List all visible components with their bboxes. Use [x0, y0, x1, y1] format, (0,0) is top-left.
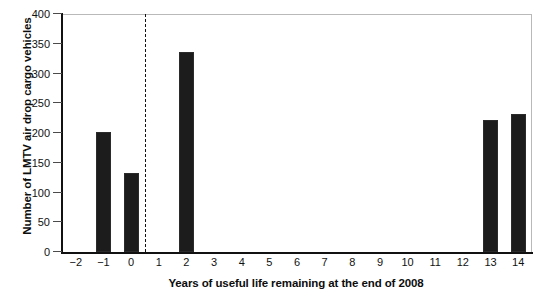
y-axis-tick: [53, 102, 62, 103]
y-axis-tick-label: 200: [16, 127, 50, 139]
y-axis-tick: [53, 73, 62, 74]
x-axis-tick-label: 11: [420, 256, 450, 268]
plot-frame-top: [62, 14, 532, 15]
bar-chart-figure: Number of LMTV air drop cargo vehicles Y…: [0, 0, 550, 300]
y-axis-tick-label: 100: [16, 187, 50, 199]
y-axis-line: [61, 13, 63, 253]
y-axis-tick-label: 150: [16, 157, 50, 169]
x-axis-tick-label: −2: [61, 256, 91, 268]
y-axis-tick-label: 350: [16, 38, 50, 50]
x-axis-tick-label: 0: [116, 256, 146, 268]
x-axis-tick-label: 8: [337, 256, 367, 268]
y-axis-tick: [53, 162, 62, 163]
bar: [124, 173, 139, 252]
x-axis-tick-label: 10: [393, 256, 423, 268]
bar: [483, 120, 498, 252]
x-axis-tick-label: 12: [448, 256, 478, 268]
x-axis-tick-label: 9: [365, 256, 395, 268]
bar: [96, 132, 111, 252]
y-axis-tick: [53, 43, 62, 44]
x-axis-tick-label: −1: [88, 256, 118, 268]
x-axis-title: Years of useful life remaining at the en…: [60, 277, 532, 289]
x-axis-tick-label: 2: [171, 256, 201, 268]
y-axis-tick-label: 0: [16, 246, 50, 258]
plot-area: [62, 14, 532, 252]
x-axis-tick-label: 6: [282, 256, 312, 268]
x-axis-tick-label: 7: [310, 256, 340, 268]
x-axis-tick-label: 14: [503, 256, 533, 268]
reference-line: [145, 14, 146, 252]
y-axis-tick-label: 250: [16, 97, 50, 109]
x-axis-tick-label: 13: [476, 256, 506, 268]
y-axis-tick: [53, 221, 62, 222]
y-axis-tick-label: 50: [16, 216, 50, 228]
bar: [511, 114, 526, 252]
y-axis-tick: [53, 251, 62, 252]
bar: [179, 52, 194, 252]
x-axis-tick-label: 3: [199, 256, 229, 268]
y-axis-tick-label: 400: [16, 8, 50, 20]
x-axis-tick-label: 5: [254, 256, 284, 268]
y-axis-tick: [53, 132, 62, 133]
x-axis-line: [61, 252, 533, 254]
y-axis-tick: [53, 13, 62, 14]
y-axis-tick: [53, 192, 62, 193]
y-axis-tick-label: 300: [16, 68, 50, 80]
plot-frame-right: [531, 14, 532, 252]
x-axis-tick-label: 1: [144, 256, 174, 268]
x-axis-tick-label: 4: [227, 256, 257, 268]
